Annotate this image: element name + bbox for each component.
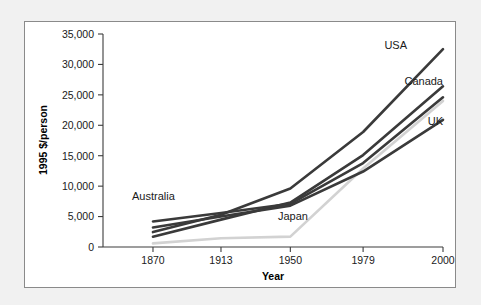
- x-tick-label: 2000: [431, 254, 455, 266]
- series-label-australia: Australia: [132, 190, 176, 202]
- y-tick-label: 10,000: [62, 180, 94, 192]
- series-label-canada: Canada: [404, 75, 443, 87]
- x-axis-ticks: [153, 247, 443, 252]
- y-tick-label: 25,000: [62, 89, 94, 101]
- y-axis-title: 1995 $/person: [37, 105, 49, 175]
- x-tick-label: 1950: [279, 254, 303, 266]
- y-tick-label: 35,000: [62, 28, 94, 40]
- series-label-usa: USA: [384, 39, 407, 51]
- y-axis-tick-labels: 05,00010,00015,00020,00025,00030,00035,0…: [62, 28, 94, 253]
- line-chart: 05,00010,00015,00020,00025,00030,00035,0…: [25, 22, 457, 289]
- y-axis-ticks: [98, 34, 103, 247]
- figure-root: 05,00010,00015,00020,00025,00030,00035,0…: [0, 0, 481, 305]
- chart-panel: 05,00010,00015,00020,00025,00030,00035,0…: [24, 21, 456, 288]
- x-axis-tick-labels: 18701913195019792000: [141, 254, 455, 266]
- x-tick-label: 1870: [141, 254, 165, 266]
- y-tick-label: 20,000: [62, 119, 94, 131]
- x-tick-label: 1913: [209, 254, 233, 266]
- series-label-uk: UK: [428, 115, 444, 127]
- x-tick-label: 1979: [351, 254, 375, 266]
- series-label-japan: Japan: [278, 210, 308, 222]
- x-axis-title: Year: [262, 270, 284, 282]
- series-line-usa: [153, 49, 443, 232]
- y-tick-label: 30,000: [62, 58, 94, 70]
- series-labels-group: USACanadaAustraliaUKJapan: [132, 39, 444, 222]
- y-tick-label: 15,000: [62, 150, 94, 162]
- y-tick-label: 5,000: [68, 210, 94, 222]
- y-tick-label: 0: [88, 241, 94, 253]
